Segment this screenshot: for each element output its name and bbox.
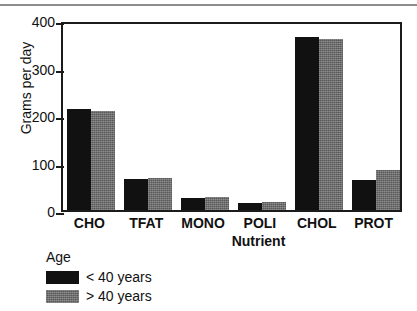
bar-chol-series0 (295, 37, 319, 210)
y-axis-tick-label-300: 300 (0, 62, 58, 78)
legend-entries: < 40 years> 40 years (46, 268, 226, 306)
bar-chol-series1 (319, 39, 343, 210)
y-axis-tick-100 (56, 166, 64, 168)
bar-group-chol (295, 24, 343, 210)
x-axis-label: Nutrient (0, 233, 417, 249)
x-axis-label-mono: MONO (175, 214, 232, 232)
y-axis-tick-label-100: 100 (0, 157, 58, 173)
top-divider-rule (0, 4, 417, 6)
bar-tfat-series0 (124, 179, 148, 210)
bar-group-poli (238, 24, 286, 210)
x-axis-label-text: Nutrient (232, 233, 286, 249)
y-axis-tick-300 (56, 71, 64, 73)
y-axis-tick-400 (56, 23, 64, 25)
bar-group-tfat (124, 24, 172, 210)
bar-poli-series1 (262, 202, 286, 210)
bar-prot-series1 (376, 170, 400, 210)
bar-tfat-series1 (148, 178, 172, 210)
legend-entry-0: < 40 years (46, 268, 226, 287)
bar-poli-series0 (238, 203, 262, 210)
y-axis-label: Grams per day (15, 8, 37, 168)
legend-label-0: < 40 years (86, 269, 152, 286)
bar-group-prot (352, 24, 400, 210)
legend-label-1: > 40 years (86, 288, 152, 305)
y-axis-tick-label-400: 400 (0, 14, 58, 30)
bar-chart-figure: Grams per day 0100200300400 CHOTFATMONOP… (0, 0, 417, 311)
y-axis-tick-label-200: 200 (0, 109, 58, 125)
bar-group-mono (181, 24, 229, 210)
gray-swatch (46, 290, 79, 303)
black-swatch (46, 271, 79, 284)
x-axis-label-prot: PROT (345, 214, 402, 232)
plot-area (61, 22, 402, 212)
legend: Age < 40 years> 40 years (46, 249, 226, 306)
bar-group-cho (67, 24, 115, 210)
x-axis-label-cho: CHO (61, 214, 118, 232)
x-axis-label-poli: POLI (232, 214, 289, 232)
bar-mono-series1 (205, 197, 229, 210)
y-axis-tick-label-0: 0 (0, 204, 58, 220)
bar-cho-series1 (91, 111, 115, 210)
bar-prot-series0 (352, 180, 376, 210)
bar-mono-series0 (181, 198, 205, 210)
y-axis-tick-200 (56, 118, 64, 120)
x-axis-label-tfat: TFAT (118, 214, 175, 232)
legend-title: Age (46, 249, 226, 266)
x-axis-label-chol: CHOL (288, 214, 345, 232)
legend-entry-1: > 40 years (46, 287, 226, 306)
bar-cho-series0 (67, 109, 91, 210)
